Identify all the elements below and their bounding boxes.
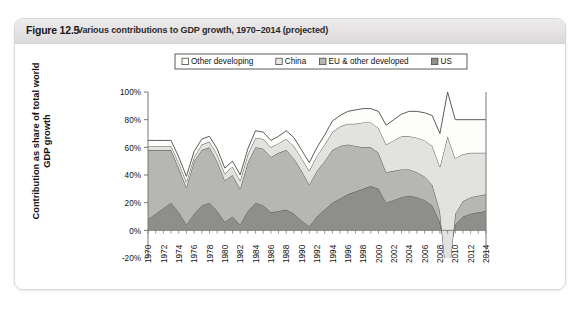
svg-text:80%: 80%: [125, 116, 141, 125]
svg-text:1990: 1990: [298, 244, 307, 263]
svg-text:1998: 1998: [359, 244, 368, 263]
figure-caption: Various contributions to GDP growth, 197…: [77, 25, 328, 35]
svg-text:1972: 1972: [160, 244, 169, 263]
svg-text:2008: 2008: [436, 244, 445, 263]
svg-text:1978: 1978: [206, 244, 215, 263]
svg-text:100%: 100%: [120, 88, 141, 97]
svg-text:1976: 1976: [190, 244, 199, 263]
svg-text:1970: 1970: [144, 244, 153, 263]
svg-text:2014: 2014: [482, 244, 491, 263]
svg-text:1980: 1980: [221, 244, 230, 263]
svg-text:China: China: [285, 57, 307, 66]
plot-area: Contribution as share of total world GDP…: [15, 44, 565, 290]
svg-text:1988: 1988: [282, 244, 291, 263]
svg-text:EU & other developed: EU & other developed: [329, 57, 410, 66]
svg-text:1986: 1986: [267, 244, 276, 263]
svg-text:0%: 0%: [129, 227, 141, 236]
svg-text:2004: 2004: [405, 244, 414, 263]
svg-text:60%: 60%: [125, 144, 141, 153]
svg-text:1982: 1982: [236, 244, 245, 263]
svg-text:Other developing: Other developing: [191, 57, 254, 66]
figure-number: Figure 12.5: [26, 24, 79, 36]
svg-text:1996: 1996: [344, 244, 353, 263]
svg-text:20%: 20%: [125, 199, 141, 208]
svg-text:1992: 1992: [313, 244, 322, 263]
svg-text:2006: 2006: [421, 244, 430, 263]
svg-text:US: US: [441, 57, 453, 66]
svg-text:1984: 1984: [252, 244, 261, 263]
svg-text:2002: 2002: [390, 244, 399, 263]
svg-text:2010: 2010: [451, 244, 460, 263]
svg-text:1974: 1974: [175, 244, 184, 263]
svg-text:2000: 2000: [375, 244, 384, 263]
svg-text:-20%: -20%: [122, 254, 141, 263]
svg-text:40%: 40%: [125, 171, 141, 180]
figure-card: Figure 12.5 Various contributions to GDP…: [14, 18, 566, 290]
svg-text:2012: 2012: [467, 244, 476, 263]
stacked-area-chart: 100%80%60%40%20%0%-20%197019721974197619…: [15, 44, 566, 290]
figure-header-bar: Figure 12.5 Various contributions to GDP…: [15, 19, 565, 44]
svg-text:1994: 1994: [329, 244, 338, 263]
